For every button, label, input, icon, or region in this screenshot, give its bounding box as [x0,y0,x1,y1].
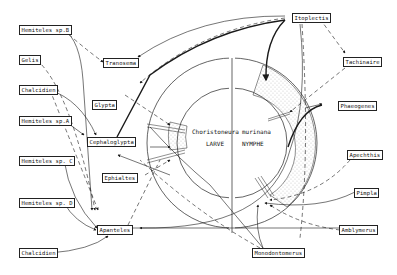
node-glypta: Glypta [92,100,117,110]
node-apechthis: Apechthis [347,150,383,160]
node-monodontomerus: Monodontomerus [252,248,305,258]
node-pimpla: Pimpla [354,188,379,198]
node-phaeogenes: Phaeogenes [338,101,377,111]
node-cephaloglypta: Cephaloglypta [87,137,136,147]
node-hemiteles-b: Hemiteles sp.B [19,25,72,35]
node-hemiteles-c: Hemiteles sp. C [19,156,75,166]
node-tachinaire: Tachinaire [343,57,382,67]
species-left: Choristoneura [192,128,239,135]
node-chalcidien-1: Chalcidien [19,85,58,95]
node-gelis: Gelis [19,55,41,65]
stage-larve: LARVE [206,140,224,147]
stage-nymphe: NYMPHE [242,140,264,147]
node-apanteles: Apanteles [97,225,133,235]
node-tranosema: Tranosema [103,58,139,68]
node-chalcidien-2: Chalcidien [19,248,58,258]
species-right: murinana [242,128,271,135]
node-itoplectis: Itoplectis [292,13,331,23]
relationship-lines [0,0,397,275]
node-hemiteles-d: Hemiteles sp. D [19,198,75,208]
node-amblymerus: Amblymerus [339,225,378,235]
node-ephialtes: Ephialtes [102,173,138,183]
node-hemiteles-a: Hemiteles sp.A [19,116,72,126]
